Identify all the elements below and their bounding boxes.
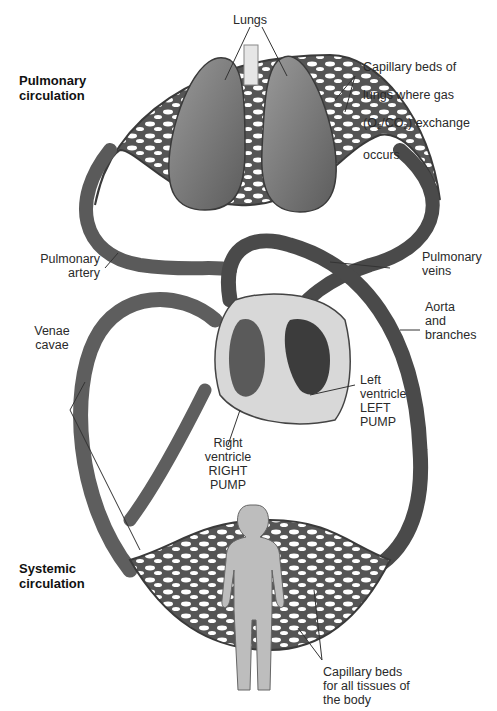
lung-capillaries-line-1: Capillary beds of (363, 60, 470, 74)
lung-capillaries-line-3: (O2/CO2) exchange (363, 116, 470, 134)
systemic-circulation-heading: Systemic circulation (19, 561, 85, 591)
left-ventricle-label: Left ventricle LEFT PUMP (360, 373, 407, 429)
venae-cavae-vessel (81, 300, 215, 570)
lung-capillaries-label: Capillary beds of lungs where gas (O2/CO… (363, 46, 470, 176)
lungs-label: Lungs (233, 13, 267, 27)
lung-capillaries-line-4: occurs (363, 148, 470, 162)
right-ventricle-chamber (229, 319, 265, 397)
pulmonary-veins-label: Pulmonary veins (422, 250, 482, 278)
right-ventricle-label: Right ventricle RIGHT PUMP (193, 436, 263, 492)
left-lung (169, 58, 245, 210)
body-capillaries-label: Capillary beds for all tissues of the bo… (323, 665, 410, 707)
pulmonary-artery-label: Pulmonary artery (40, 252, 100, 280)
trachea (244, 45, 258, 85)
aorta-label: Aorta and branches (425, 300, 476, 342)
venae-cavae-label: Venae cavae (28, 324, 76, 352)
heart (215, 294, 350, 424)
lung-capillaries-line-2: lungs where gas (363, 88, 470, 102)
pulmonary-circulation-heading: Pulmonary circulation (19, 73, 86, 103)
